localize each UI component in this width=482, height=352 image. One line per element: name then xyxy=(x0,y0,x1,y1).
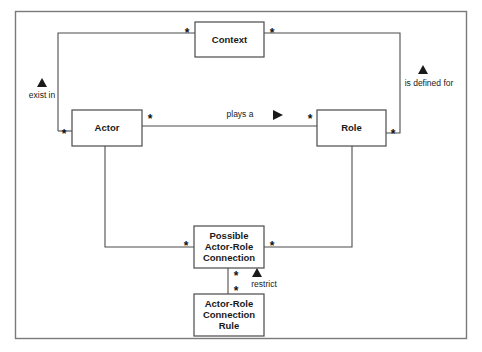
uml-class-diagram: Context : left vertical + top horizontal… xyxy=(0,0,482,352)
association-label-exist-in: exist in xyxy=(29,90,56,100)
class-box-possible-actor-role-connection-line-2: Actor-Role xyxy=(205,241,254,252)
class-box-actor-role-connection-rule-line-1: Actor-Role xyxy=(205,298,254,309)
class-box-possible-actor-role-connection-line-3: Connection xyxy=(203,252,255,263)
multiplicity-possible-connection-right: * xyxy=(270,239,275,253)
edge-actor-possible-connection xyxy=(105,146,194,247)
multiplicity-context-right: * xyxy=(270,26,275,40)
class-box-possible-actor-role-connection[interactable]: Possible Actor-Role Connection xyxy=(194,226,264,268)
multiplicity-context-left: * xyxy=(185,26,190,40)
class-box-actor-role-connection-rule[interactable]: Actor-Role Connection Rule xyxy=(194,294,264,336)
diagram-canvas: Context : left vertical + top horizontal… xyxy=(0,0,482,352)
class-box-actor-role-connection-rule-line-2: Connection xyxy=(203,309,255,320)
multiplicity-possible-connection-bottom: * xyxy=(234,269,239,283)
class-box-actor[interactable]: Actor xyxy=(72,110,142,146)
triangle-up-icon-exist-in xyxy=(37,78,47,87)
multiplicity-rule-top: * xyxy=(234,284,239,298)
association-label-plays-a: plays a xyxy=(227,109,254,119)
multiplicity-role-left: * xyxy=(308,112,313,126)
triangle-right-icon-plays-a xyxy=(273,110,283,120)
class-box-context-label: Context xyxy=(212,34,248,45)
class-box-role-label: Role xyxy=(341,122,362,133)
class-box-role[interactable]: Role xyxy=(317,110,386,146)
association-label-restrict: restrict xyxy=(251,279,277,289)
multiplicity-possible-connection-left: * xyxy=(184,239,189,253)
diagram-frame xyxy=(16,12,467,339)
class-box-actor-label: Actor xyxy=(95,122,120,133)
association-label-is-defined-for: is defined for xyxy=(405,78,454,88)
multiplicity-role-right: * xyxy=(391,127,396,141)
edge-role-possible-connection xyxy=(264,146,352,247)
triangle-up-icon-is-defined-for xyxy=(418,65,428,74)
multiplicity-actor-left: * xyxy=(62,127,67,141)
multiplicity-actor-right: * xyxy=(148,112,153,126)
triangle-up-icon-restrict xyxy=(252,268,262,277)
class-box-actor-role-connection-rule-line-3: Rule xyxy=(219,320,240,331)
class-box-context[interactable]: Context xyxy=(195,22,264,57)
class-box-possible-actor-role-connection-line-1: Possible xyxy=(209,230,248,241)
